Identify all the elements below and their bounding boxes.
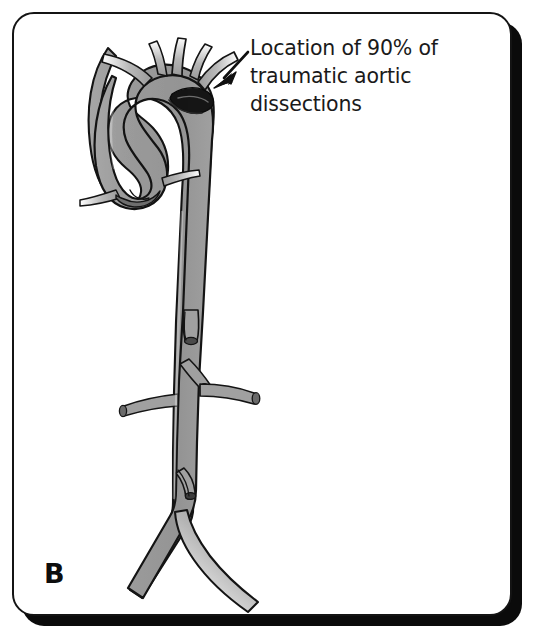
- annotation-line-2: traumatic aortic: [250, 62, 500, 90]
- right-renal-artery: [120, 394, 178, 416]
- celiac-trunk-lumen: [185, 337, 198, 344]
- left-renal-artery: [200, 384, 259, 404]
- right-renal-artery-lumen: [119, 405, 126, 416]
- annotation-text: Location of 90% of traumatic aortic diss…: [250, 34, 500, 118]
- left-renal-artery-lumen: [252, 393, 260, 405]
- left-common-iliac-artery: [175, 510, 258, 612]
- figure-root: Location of 90% of traumatic aortic diss…: [0, 0, 535, 644]
- inferior-mesenteric-lumen: [185, 493, 195, 500]
- annotation-line-1: Location of 90% of: [250, 34, 500, 62]
- panel-letter-label: B: [44, 558, 65, 589]
- annotation-line-3: dissections: [250, 90, 500, 118]
